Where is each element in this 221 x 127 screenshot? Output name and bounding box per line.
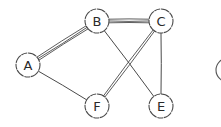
node-b: B — [85, 9, 109, 33]
nodes-layer: ABCFE — [16, 9, 173, 118]
edge-a-b — [37, 26, 86, 57]
node-label: B — [93, 14, 102, 29]
node-f: F — [85, 94, 109, 118]
node-label: E — [157, 99, 165, 114]
node-label: C — [156, 14, 165, 29]
node-a: A — [16, 53, 40, 77]
edge-a-f — [38, 71, 86, 100]
graph-diagram: ABCFE — [0, 0, 221, 127]
node-label: A — [24, 58, 33, 73]
edge-a-b — [39, 29, 88, 60]
edge-b-e — [104, 31, 154, 97]
partial-node — [216, 58, 221, 82]
node-e: E — [149, 94, 173, 118]
node-label: F — [93, 99, 100, 114]
edge-a-b — [38, 27, 87, 58]
node-c: C — [149, 9, 173, 33]
